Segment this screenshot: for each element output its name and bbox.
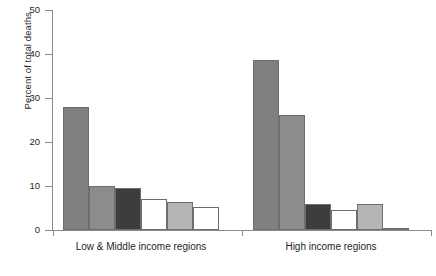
bar-chart: Percent of total deaths 01020304050 Low … — [0, 0, 436, 276]
bar — [331, 210, 357, 230]
bar — [167, 202, 193, 230]
x-axis-group-label: High income regions — [221, 242, 436, 252]
bar — [305, 204, 331, 230]
y-axis-tick — [45, 230, 53, 231]
bar — [253, 60, 279, 230]
bottom-caption — [6, 270, 430, 276]
bar — [89, 186, 115, 230]
y-axis-tick-label: 0 — [0, 225, 40, 235]
bar — [383, 228, 409, 230]
y-axis-tick — [45, 98, 53, 99]
y-axis-tick-label: 30 — [0, 93, 40, 103]
bar — [357, 204, 383, 230]
bar — [141, 199, 167, 230]
bar — [115, 188, 141, 230]
y-axis-tick — [45, 186, 53, 187]
y-axis-tick — [45, 54, 53, 55]
y-axis-tick — [45, 10, 53, 11]
bar — [193, 207, 219, 230]
y-axis-tick-label: 10 — [0, 181, 40, 191]
y-axis-tick-label: 40 — [0, 49, 40, 59]
y-axis-title: Percent of total deaths — [23, 0, 33, 141]
x-axis-tick — [431, 230, 432, 236]
y-axis-tick-label: 20 — [0, 137, 40, 147]
y-axis-tick — [45, 142, 53, 143]
x-axis-group-label: Low & Middle income regions — [31, 242, 251, 252]
bar — [63, 107, 89, 230]
plot-area — [53, 10, 431, 230]
x-axis-tick — [242, 230, 243, 236]
bar — [279, 115, 305, 230]
y-axis-tick-label: 50 — [0, 5, 40, 15]
x-axis-tick — [53, 230, 54, 236]
